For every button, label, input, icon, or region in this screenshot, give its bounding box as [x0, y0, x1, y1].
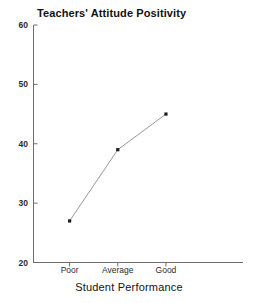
x-tick-label: Poor — [61, 266, 79, 275]
y-tick-label: 40 — [4, 140, 28, 149]
axes-group — [33, 25, 243, 263]
data-point-marker — [164, 112, 167, 115]
x-axis-title: Student Performance — [0, 281, 258, 293]
data-point-marker — [68, 219, 71, 222]
y-tick-label: 50 — [4, 80, 28, 89]
y-tick-label: 60 — [4, 21, 28, 30]
y-tick-label: 30 — [4, 199, 28, 208]
y-tick-marks — [34, 25, 38, 263]
x-tick-label: Good — [156, 266, 177, 275]
data-point-markers — [68, 112, 168, 222]
data-line-series — [70, 114, 166, 221]
x-axis-tick-labels: PoorAverageGood — [0, 266, 258, 278]
data-point-marker — [116, 148, 119, 151]
x-tick-label: Average — [102, 266, 134, 275]
plot-area — [0, 0, 258, 303]
chart-container: Teachers' Attitude Positivity 2030405060… — [0, 0, 258, 303]
